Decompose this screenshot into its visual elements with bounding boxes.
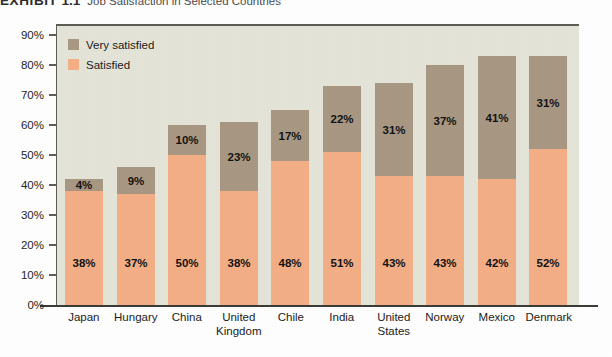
y-axis-tick: 0% <box>0 298 56 312</box>
bar-segment-satisfied: 42% <box>478 179 516 305</box>
bar-stack: 22%51% <box>323 86 361 305</box>
bar-segment-very-satisfied: 4% <box>65 179 103 191</box>
category-label-line: Chile <box>265 311 317 325</box>
y-axis-tick-mark <box>49 184 56 186</box>
y-axis-tick-mark <box>49 154 56 156</box>
bar-value-label: 50% <box>175 257 198 269</box>
bar-stack: 4%38% <box>65 179 103 305</box>
category-label: India <box>316 311 368 325</box>
bar-value-label: 4% <box>76 179 93 191</box>
y-axis-tick: 70% <box>0 88 56 102</box>
bar-value-label: 31% <box>382 124 405 136</box>
y-axis-tick: 60% <box>0 118 56 132</box>
bar-value-label: 41% <box>485 112 508 124</box>
y-axis-tick-label: 80% <box>21 58 44 72</box>
y-axis-tick-label: 90% <box>21 28 44 42</box>
bar-segment-very-satisfied: 31% <box>529 56 567 149</box>
bar-value-label: 52% <box>536 257 559 269</box>
bar-value-label: 22% <box>330 113 353 125</box>
exhibit-label: EXHIBIT <box>0 0 57 7</box>
bar-value-label: 43% <box>382 257 405 269</box>
bar-segment-satisfied: 37% <box>117 194 155 305</box>
category-label-line: China <box>161 311 213 325</box>
category-label: China <box>161 311 213 325</box>
legend-swatch-icon <box>68 59 79 70</box>
y-axis-tick: 50% <box>0 148 56 162</box>
y-axis-tick: 10% <box>0 268 56 282</box>
exhibit-title: EXHIBIT1.1Job Satisfaction in Selected C… <box>0 0 612 7</box>
y-axis-tick-mark <box>49 274 56 276</box>
bar-value-label: 42% <box>485 257 508 269</box>
bar-segment-satisfied: 43% <box>426 176 464 305</box>
bar-value-label: 10% <box>175 134 198 146</box>
legend-item-label: Satisfied <box>86 59 130 71</box>
bar-value-label: 48% <box>278 257 301 269</box>
bar-value-label: 23% <box>227 151 250 163</box>
y-axis-tick-label: 30% <box>21 208 44 222</box>
y-axis-tick: 80% <box>0 58 56 72</box>
bar-stack: 31%52% <box>529 56 567 305</box>
bar-stack: 31%43% <box>375 83 413 305</box>
bar-segment-satisfied: 52% <box>529 149 567 305</box>
bar-segment-satisfied: 51% <box>323 152 361 305</box>
y-axis-tick-mark <box>49 34 56 36</box>
legend-item-very_satisfied: Very satisfied <box>68 36 154 53</box>
bar-segment-very-satisfied: 41% <box>478 56 516 179</box>
category-label-line: India <box>316 311 368 325</box>
bar-stack: 17%48% <box>271 110 309 305</box>
category-label-line: United <box>368 311 420 325</box>
bar-stack: 9%37% <box>117 167 155 305</box>
legend-item-satisfied: Satisfied <box>68 56 154 73</box>
category-label-line: Denmark <box>523 311 575 325</box>
bar-value-label: 9% <box>128 175 145 187</box>
job-satisfaction-chart: 0%10%20%30%40%50%60%70%80%90% Very satis… <box>0 0 612 357</box>
bar-value-label: 51% <box>330 257 353 269</box>
y-axis-tick-label: 60% <box>21 118 44 132</box>
bar-value-label: 38% <box>72 257 95 269</box>
bar-value-label: 37% <box>433 115 456 127</box>
exhibit-number: 1.1 <box>61 0 80 7</box>
y-axis-tick: 30% <box>0 208 56 222</box>
y-axis-tick: 40% <box>0 178 56 192</box>
category-label: Mexico <box>471 311 523 325</box>
bar-segment-satisfied: 38% <box>65 191 103 305</box>
category-label-line: Kingdom <box>213 325 265 339</box>
y-axis-tick: 20% <box>0 238 56 252</box>
bar-segment-very-satisfied: 22% <box>323 86 361 152</box>
bar-segment-very-satisfied: 9% <box>117 167 155 194</box>
category-label-line: States <box>368 325 420 339</box>
y-axis-tick-label: 70% <box>21 88 44 102</box>
bar-value-label: 38% <box>227 257 250 269</box>
bar-stack: 41%42% <box>478 56 516 305</box>
bar-segment-satisfied: 38% <box>220 191 258 305</box>
category-label: Hungary <box>110 311 162 325</box>
bar-stack: 23%38% <box>220 122 258 305</box>
category-label: Denmark <box>523 311 575 325</box>
y-axis-tick-label: 20% <box>21 238 44 252</box>
bar-segment-satisfied: 48% <box>271 161 309 305</box>
bar-stack: 10%50% <box>168 125 206 305</box>
bar-segment-very-satisfied: 23% <box>220 122 258 191</box>
chart-legend: Very satisfiedSatisfied <box>68 36 154 76</box>
x-axis-line <box>40 305 598 307</box>
category-label-line: Japan <box>58 311 110 325</box>
y-axis-tick-label: 0% <box>27 298 44 312</box>
category-label-line: United <box>213 311 265 325</box>
bar-segment-satisfied: 43% <box>375 176 413 305</box>
y-axis-tick-label: 10% <box>21 268 44 282</box>
category-label: Japan <box>58 311 110 325</box>
y-axis-tick-mark <box>49 244 56 246</box>
category-label: UnitedStates <box>368 311 420 338</box>
category-label: Norway <box>419 311 471 325</box>
category-label-line: Hungary <box>110 311 162 325</box>
bar-value-label: 37% <box>124 257 147 269</box>
category-label: UnitedKingdom <box>213 311 265 338</box>
y-axis-tick-mark <box>49 124 56 126</box>
y-axis-tick-mark <box>49 94 56 96</box>
bar-stack: 37%43% <box>426 65 464 305</box>
category-label-line: Norway <box>419 311 471 325</box>
y-axis-tick-label: 50% <box>21 148 44 162</box>
y-axis-tick-mark <box>49 214 56 216</box>
bar-value-label: 31% <box>536 97 559 109</box>
category-label: Chile <box>265 311 317 325</box>
